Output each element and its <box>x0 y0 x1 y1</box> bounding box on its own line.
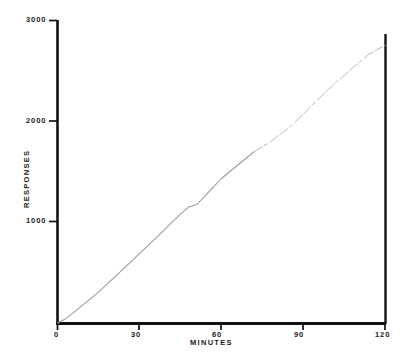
cumulative-record-figure: 3000 2000 1000 0 30 60 90 120 MINUTES RE… <box>0 0 407 355</box>
curve-segment-solid <box>58 152 255 323</box>
y-axis-tick-label-3000: 3000 <box>26 15 46 24</box>
y-axis-tick-label-1000: 1000 <box>26 216 46 225</box>
chart-plot-area <box>0 0 407 355</box>
x-axis-tick-label-30: 30 <box>131 330 141 339</box>
cumulative-response-curve <box>58 46 386 323</box>
y-axis-tick-label-2000: 2000 <box>26 116 46 125</box>
x-axis-title: MINUTES <box>190 338 233 347</box>
x-axis-tick-label-0: 0 <box>54 330 59 339</box>
y-axis-title: RESPONSES <box>22 150 31 208</box>
curve-segment-faded <box>254 46 385 152</box>
x-axis-tick-label-120: 120 <box>375 330 390 339</box>
x-axis-tick-label-90: 90 <box>294 330 304 339</box>
